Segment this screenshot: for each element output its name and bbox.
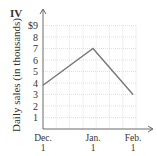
y-tick-label: 3 [33, 89, 38, 100]
y-tick-label: 6 [33, 55, 38, 66]
x-tick-label: 1 [41, 143, 46, 153]
x-tick-label: Dec. [34, 133, 52, 143]
y-tick-label: 4 [33, 78, 38, 89]
line-chart: 12345678$9Dec.1Jan.1Feb.1Daily sales (in… [0, 0, 157, 156]
x-tick-label: 1 [131, 143, 136, 153]
x-tick-label: Jan. [85, 133, 100, 143]
x-tick-label: 1 [91, 143, 96, 153]
y-tick-label: 1 [33, 112, 38, 123]
y-tick-label: 8 [33, 32, 38, 43]
y-axis-label: Daily sales (in thousands) [10, 18, 23, 132]
x-tick-label: Feb. [125, 133, 142, 143]
y-tick-label: 7 [33, 43, 38, 54]
y-tick-label: 5 [33, 66, 38, 77]
y-tick-label: $9 [28, 20, 38, 31]
y-tick-label: 2 [33, 101, 38, 112]
